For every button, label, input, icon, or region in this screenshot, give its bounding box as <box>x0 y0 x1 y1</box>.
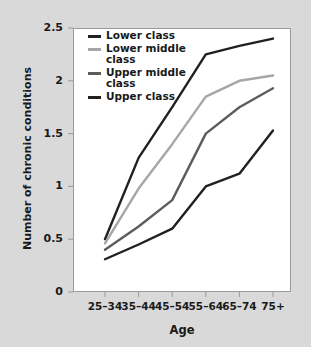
y-axis-title: Number of chronic conditions <box>21 64 34 254</box>
legend-swatch-icon <box>88 48 101 51</box>
x-tick-label: 75+ <box>248 300 298 312</box>
legend-item: Lower class <box>88 30 208 42</box>
legend-item-label: Lower middle class <box>106 43 208 66</box>
legend-swatch-icon <box>88 35 101 38</box>
legend-item-label: Lower class <box>106 30 175 42</box>
legend-item-label: Upper middle class <box>106 67 208 90</box>
chart-legend: Lower classLower middle classUpper middl… <box>88 30 208 103</box>
legend-item: Upper class <box>88 91 208 103</box>
y-tick-label: 2 <box>33 74 63 87</box>
legend-swatch-icon <box>88 96 101 99</box>
y-tick-label: 2.5 <box>33 21 63 34</box>
legend-item: Lower middle class <box>88 43 208 66</box>
y-tick-label: 0.5 <box>33 232 63 245</box>
legend-swatch-icon <box>88 72 101 75</box>
x-axis-title: Age <box>73 323 291 337</box>
legend-item-label: Upper class <box>106 91 175 103</box>
legend-item: Upper middle class <box>88 67 208 90</box>
y-tick-label: 1.5 <box>33 127 63 140</box>
series-line <box>105 88 273 250</box>
y-tick-label: 1 <box>33 179 63 192</box>
y-tick-label: 0 <box>33 285 63 298</box>
series-line <box>105 130 273 259</box>
chart-figure: 00.511.522.5 25–3435–4445–5455–6465–7475… <box>0 0 311 347</box>
